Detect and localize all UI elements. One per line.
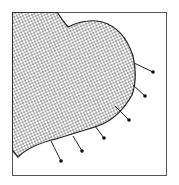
pin-head-icon xyxy=(80,149,84,153)
pin-head-icon xyxy=(102,136,106,140)
pin-head-icon xyxy=(127,118,131,122)
pin-head-icon xyxy=(143,94,147,98)
pin-head-icon xyxy=(59,159,63,163)
pin-head-icon xyxy=(151,70,155,74)
diagram-canvas xyxy=(0,0,179,185)
